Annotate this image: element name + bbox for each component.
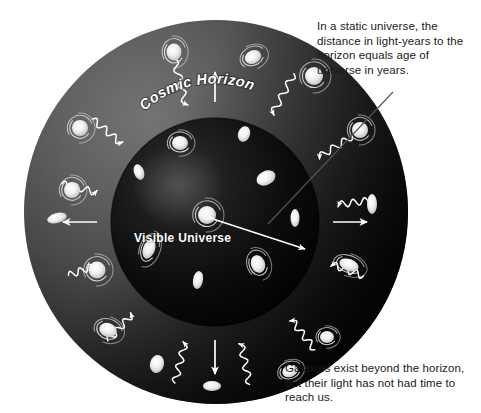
inner-sphere-visible-universe [111,118,319,326]
galaxy-core [198,206,216,224]
galaxy-core [172,136,188,150]
galaxy-core [64,182,80,198]
galaxy-core [367,194,377,214]
inner-sphere-body [111,118,319,326]
caption-galaxies-beyond: Galaxies exist beyond the horizon, but t… [285,361,475,405]
galaxy [291,209,300,227]
galaxy-core [167,44,182,61]
galaxy-core [72,120,88,136]
galaxy-core [320,331,334,343]
galaxy [203,381,221,391]
galaxy-core [352,122,368,138]
galaxy-core [203,381,221,391]
galaxy-core [291,209,300,227]
galaxy [367,194,377,214]
caption-static-universe: In a static universe, the distance in li… [317,19,473,77]
label-visible-universe: Visible Universe [134,231,231,245]
galaxy-core [89,262,106,279]
